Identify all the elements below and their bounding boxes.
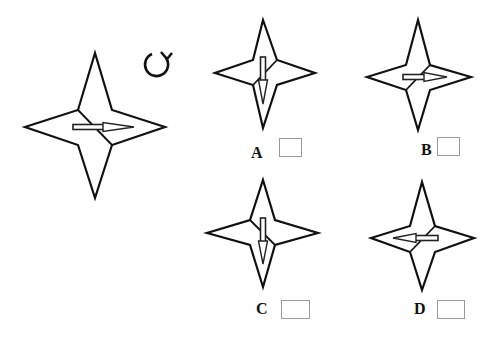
option-b-figure <box>367 20 471 130</box>
option-c-label: C <box>256 301 268 317</box>
option-c-checkbox[interactable] <box>281 300 310 319</box>
option-b-label: B <box>421 142 432 158</box>
option-d-checkbox[interactable] <box>437 300 465 319</box>
option-a-figure <box>215 20 315 128</box>
option-b-checkbox[interactable] <box>437 137 460 156</box>
reference-figure <box>25 53 165 198</box>
option-c-figure <box>207 180 318 287</box>
puzzle-canvas <box>0 0 497 338</box>
option-a-label: A <box>251 145 263 161</box>
option-d-label: D <box>414 301 426 317</box>
option-d-figure <box>371 182 474 290</box>
clockwise-rotate-icon <box>145 52 172 76</box>
option-a-checkbox[interactable] <box>279 138 302 157</box>
